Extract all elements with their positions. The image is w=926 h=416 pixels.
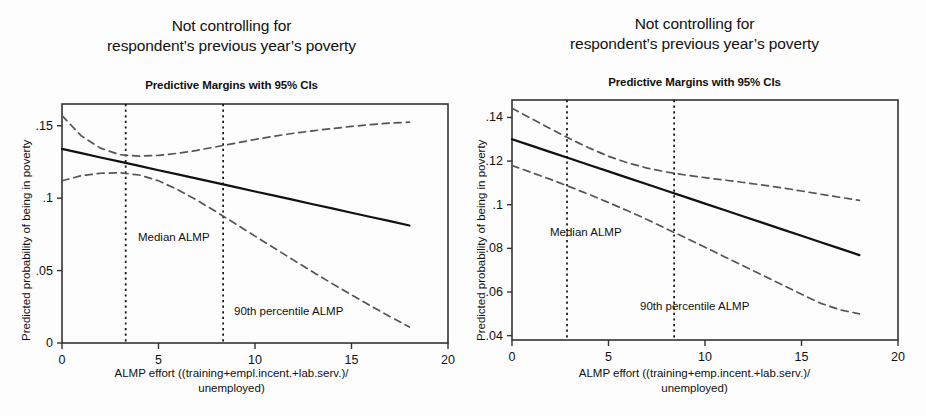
x-tick-label: 20 [891,350,905,364]
y-tick-label: .1 [493,198,503,212]
predictive-margins-figure: Not controlling for respondent’s previou… [0,0,926,416]
y-tick-label: .15 [36,119,53,133]
x-tick-label: 10 [698,350,712,364]
confidence-interval-line [62,116,409,157]
chart-panel-right: Not controlling for respondent’s previou… [463,0,926,416]
y-tick-label: .14 [486,110,503,124]
reference-line-label: 90th percentile ALMP [640,300,749,312]
plot-area-right [463,0,926,416]
y-tick-label: .12 [486,154,503,168]
x-tick-label: 5 [605,350,612,364]
x-tick-label: 5 [155,353,162,367]
y-tick-label: .08 [486,241,503,255]
reference-line-label: Median ALMP [138,231,210,243]
x-tick-label: 20 [441,353,455,367]
x-tick-label: 15 [795,350,809,364]
confidence-interval-line [512,108,859,200]
y-tick-label: .04 [486,329,503,343]
y-tick-label: .05 [36,264,53,278]
confidence-interval-line [62,173,409,327]
x-tick-label: 0 [509,350,516,364]
margin-line [62,149,409,226]
confidence-interval-line [512,165,859,313]
x-tick-label: 0 [59,353,66,367]
reference-line-label: 90th percentile ALMP [234,305,343,317]
y-tick-label: .1 [43,191,53,205]
x-tick-label: 10 [248,353,262,367]
y-tick-label: 0 [46,336,53,350]
y-tick-label: .06 [486,285,503,299]
reference-line-label: Median ALMP [550,226,622,238]
plot-area-left [0,0,463,416]
chart-panel-left: Not controlling for respondent’s previou… [0,0,463,416]
x-tick-label: 15 [345,353,359,367]
